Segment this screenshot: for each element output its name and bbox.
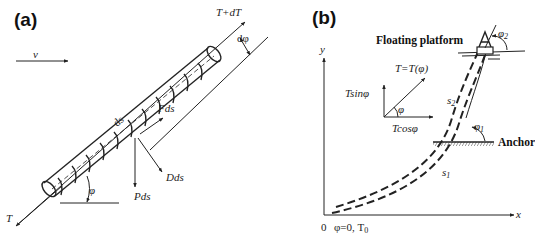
- floating-platform: φ2 Floating platform: [376, 25, 525, 59]
- y-axis-label: y: [319, 43, 325, 55]
- segment-s2-label: s2: [447, 94, 455, 108]
- tension-vector-arrow: [384, 78, 425, 117]
- velocity-label: v: [33, 48, 38, 60]
- anchor-label: Anchor: [498, 136, 535, 148]
- force-vectors: Fds Pds Dds: [133, 102, 184, 202]
- drag-force-label: Dds: [165, 171, 184, 183]
- tension-bottom-label: T: [6, 212, 13, 224]
- panel-b: (b) y x 0 φ=0, T0 φ T=T(φ) Tsinφ Tcosφ: [312, 7, 535, 235]
- tension-top-label: T+dT: [216, 6, 242, 18]
- anchor: φ1 Anchor: [433, 120, 535, 148]
- panel-b-label: (b): [312, 7, 336, 28]
- component-angle-label: φ: [398, 103, 404, 115]
- panel-a: (a) v dφ T+dT T: [6, 6, 268, 226]
- x-axis-label: x: [515, 208, 521, 220]
- origin-label: 0: [321, 221, 327, 233]
- angle-dphi-indicator: dφ: [237, 32, 250, 55]
- friction-force-label: Fds: [157, 102, 175, 114]
- tension-bottom-arrow: [16, 186, 62, 226]
- velocity-arrow: v: [16, 48, 68, 61]
- angle-phi-indicator: φ: [60, 176, 119, 203]
- tension-component-diagram: φ T=T(φ) Tsinφ Tcosφ: [345, 62, 433, 134]
- angle-phi-label: φ: [89, 184, 95, 196]
- weight-force-label: Pds: [133, 190, 151, 202]
- friction-force-arrow: [140, 118, 163, 134]
- angle-increment-label: dφ: [237, 32, 249, 44]
- segment-s1-label: s1: [442, 166, 450, 180]
- drag-force-arrow: [138, 138, 162, 172]
- mooring-line-diagram: (a) v dφ T+dT T: [0, 0, 535, 239]
- tension-function-label: T=T(φ): [395, 62, 428, 75]
- vertical-component-label: Tsinφ: [345, 87, 369, 99]
- floating-platform-label: Floating platform: [376, 34, 464, 47]
- angle-phi1-label: φ1: [474, 120, 484, 134]
- twisted-rope-element: [39, 44, 223, 199]
- angle-phi2-label: φ2: [498, 27, 508, 41]
- horizontal-component-label: Tcosφ: [392, 122, 418, 134]
- origin-condition-label: φ=0, T0: [334, 221, 368, 235]
- panel-a-label: (a): [14, 9, 37, 30]
